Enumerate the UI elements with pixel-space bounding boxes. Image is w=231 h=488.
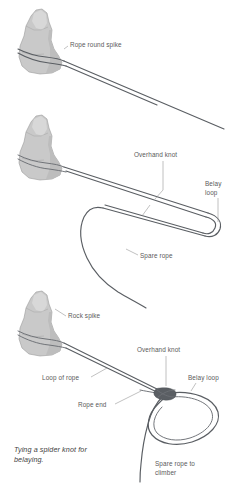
panel-1: Rope round spike <box>18 9 224 129</box>
label-belay-loop-line-1: Belay <box>205 180 222 188</box>
label-spare-rope: Spare rope <box>126 249 173 260</box>
label-spare-rope-to-climber: Spare rope to climber <box>155 460 195 476</box>
label-rope-round-spike-text: Rope round spike <box>70 41 122 49</box>
label-belay-loop-text: Belay loop <box>188 374 219 382</box>
label-belay-loop: Belay loop <box>188 374 219 391</box>
figure-caption-line-2: belaying. <box>14 455 44 464</box>
label-rock-spike-text: Rock spike <box>68 312 101 320</box>
label-rock-spike: Rock spike <box>55 309 101 320</box>
label-rope-end: Rope end <box>78 391 141 409</box>
label-spare-rope-text: Spare rope <box>140 252 173 260</box>
label-overhand-knot: Overhand knot <box>137 346 180 386</box>
figure-canvas: Rope round spike <box>0 0 231 488</box>
label-spare-rope-to-climber-line-1: Spare rope to <box>155 460 195 468</box>
figure-caption-line-1: Tying a spider knot for <box>14 445 87 454</box>
label-loop-of-rope: Loop of rope <box>42 368 107 382</box>
spider-knot-figure: Rope round spike <box>0 0 231 488</box>
label-overhand-knot-text: Overhand knot <box>137 346 180 353</box>
panel-2: Overhand knot Belay loop Spare rope <box>18 115 222 308</box>
label-overhand-knot-text: Overhand knot <box>134 151 177 158</box>
panel-3: Rock spike Overhand knot Belay loop Loop… <box>14 291 219 482</box>
label-spare-rope-to-climber-line-2: climber <box>155 469 177 476</box>
label-overhand-knot: Overhand knot <box>134 151 177 216</box>
figure-caption: Tying a spider knot for belaying. <box>14 445 87 464</box>
label-belay-loop-line-2: loop <box>205 189 218 197</box>
label-rope-round-spike: Rope round spike <box>64 41 122 49</box>
label-rope-end-text: Rope end <box>78 401 107 409</box>
label-loop-of-rope-text: Loop of rope <box>42 374 79 382</box>
